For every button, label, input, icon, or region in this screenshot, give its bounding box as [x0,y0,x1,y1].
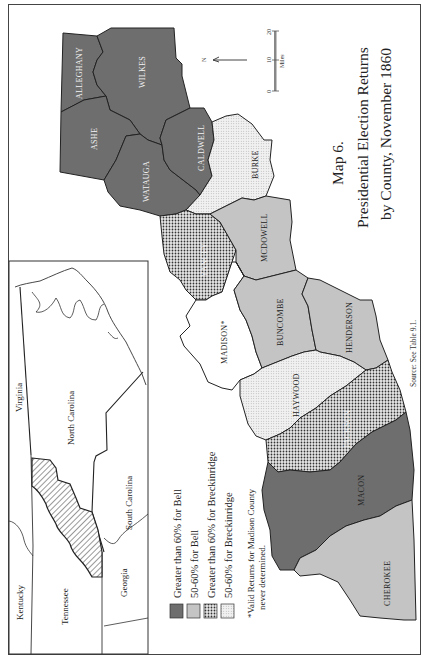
inset-label-tennessee: Tennessee [60,588,70,625]
scale-unit: Miles [279,54,285,68]
label-cherokee: CHEROKEE [383,561,392,606]
inset-label-georgia: Georgia [119,568,129,597]
label-macon: MACON [357,475,366,506]
legend-swatch-bell-50-60 [187,604,200,618]
label-wilkes: WILKES [138,56,147,88]
scale-tick-10: 10 [266,57,272,63]
title-line-2: Presidential Election Returns [354,47,371,228]
label-burke: BURKE [251,150,260,179]
map-title: Map 6. Presidential Election Returns by … [329,47,394,228]
scale-tick-20: 20 [266,29,272,35]
inset-label-north-carolina: North Carolina [66,391,76,445]
inset-map: Virginia North Carolina South Carolina K… [9,261,148,654]
inset-label-south-carolina: South Carolina [124,476,134,530]
label-alleghany: ALLEGHANY [75,47,84,99]
inset-label-virginia: Virginia [14,383,24,412]
label-ashe: ASHE [90,128,99,150]
north-arrow-label: N [201,57,207,62]
legend-swatch-breck-50-60 [221,604,234,618]
legend-note-line-2: never determined. [257,545,267,610]
scale-bar: 0 10 20 Miles [266,29,285,93]
legend-label-breck-50-60: 50-60% for Breckinridge [223,492,234,598]
legend-note-line-1: *Valid Returns for Madison County [246,489,256,618]
map-figure: Virginia North Carolina South Carolina K… [0,0,429,668]
legend-swatch-breck-over-60 [204,604,217,618]
label-madison: MADISON* [220,320,229,364]
source-note: Source: See Table 9.1. [409,320,418,387]
title-line-1: Map 6. [329,141,346,185]
legend: Greater than 60% for Bell 50-60% for Bel… [170,451,267,618]
label-buncombe: BUNCOMBE [276,298,285,346]
label-haywood: HAYWOOD [292,373,301,417]
label-caldwell: CALDWELL [197,125,206,171]
label-watauga: WATAUGA [142,161,151,202]
inset-label-kentucky: Kentucky [15,585,25,620]
legend-label-breck-over-60: Greater than 60% for Breckinridge [206,451,217,598]
label-henderson: HENDERSON [345,302,354,353]
legend-label-bell-over-60: Greater than 60% for Bell [172,489,183,598]
north-arrow: N [201,57,247,62]
label-jackson: JACKSON [343,410,352,448]
label-mcdowell: MCDOWELL [260,213,269,262]
legend-swatch-bell-over-60 [170,604,183,618]
label-yancey: YANCEY [200,243,209,277]
legend-label-bell-50-60: 50-60% for Bell [189,530,200,598]
scale-tick-0: 0 [266,90,272,93]
title-line-3: by County, November 1860 [377,48,394,220]
